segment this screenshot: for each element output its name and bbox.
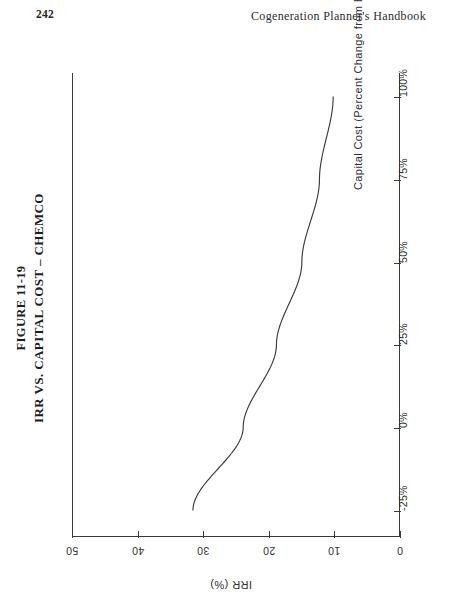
y-axis-tick-mark: [72, 531, 73, 538]
y-axis-tick-label: 30: [190, 543, 216, 557]
x-axis-tick-label: 25%: [397, 305, 411, 345]
x-axis-tick-mark: [394, 511, 401, 512]
x-axis-title: Capital Cost (Percent Change from Base): [352, 0, 368, 190]
y-axis-tick-mark: [334, 531, 335, 538]
y-axis-tick-mark: [269, 531, 270, 538]
y-axis-tick-label: 50: [59, 543, 85, 557]
x-axis-tick-mark: [394, 97, 401, 98]
figure-container: FIGURE 11-19 IRR VS. CAPITAL COST – CHEM…: [0, 0, 460, 615]
x-axis-tick-label: -25%: [397, 471, 411, 511]
x-axis-tick-label: 75%: [397, 140, 411, 180]
y-axis-tick-label: 20: [256, 543, 282, 557]
y-axis-tick-label: 40: [125, 543, 151, 557]
y-axis-tick-label: 0: [387, 543, 413, 557]
y-axis-tick-mark: [203, 531, 204, 538]
figure-caption: FIGURE 11-19 IRR VS. CAPITAL COST – CHEM…: [12, 98, 58, 518]
y-axis-title: IRR (%): [186, 575, 276, 591]
y-axis-tick-mark: [400, 531, 401, 538]
plot-frame: [72, 73, 400, 537]
x-axis-tick-mark: [394, 428, 401, 429]
figure-number: FIGURE 11-19: [12, 98, 30, 518]
plot-line-series: [73, 73, 399, 536]
figure-title: IRR VS. CAPITAL COST – CHEMCO: [30, 98, 49, 518]
x-axis-tick-label: 0%: [397, 388, 411, 428]
x-axis-tick-mark: [394, 345, 401, 346]
x-axis-tick-label: 50%: [397, 223, 411, 263]
y-axis-tick-label: 10: [321, 543, 347, 557]
y-axis-tick-mark: [138, 531, 139, 538]
x-axis-tick-label: 100%: [397, 57, 411, 97]
